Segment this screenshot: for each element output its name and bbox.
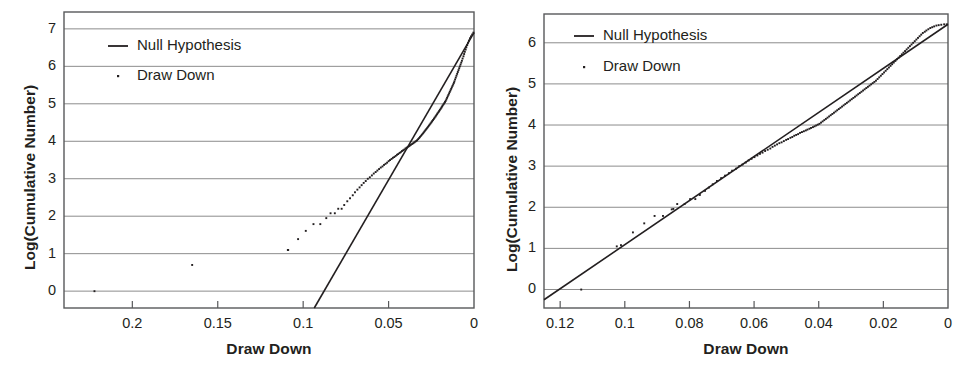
y-tick-label: 2 xyxy=(30,207,56,223)
legend-label-draw-down-right: Draw Down xyxy=(603,57,681,74)
data-point xyxy=(909,45,911,47)
data-point xyxy=(457,71,459,73)
data-point xyxy=(903,52,905,54)
x-tick-label: 0.06 xyxy=(724,315,784,331)
y-tick-label: 0 xyxy=(30,282,56,298)
data-point xyxy=(467,42,469,44)
data-point xyxy=(373,173,375,175)
data-point xyxy=(684,203,686,205)
data-point xyxy=(791,136,793,138)
data-point xyxy=(325,217,327,219)
y-tick-label: 2 xyxy=(510,198,536,214)
data-point xyxy=(461,60,463,62)
data-point xyxy=(456,73,458,75)
data-point xyxy=(869,85,871,87)
figure-two-panel-qq-plots: Log(Cumulative Number) Draw Down Null Hy… xyxy=(0,0,978,379)
data-point xyxy=(943,23,945,25)
data-point xyxy=(708,187,710,189)
data-point xyxy=(456,75,458,77)
x-tick-label: 0.08 xyxy=(659,315,719,331)
data-point xyxy=(468,40,470,42)
data-point xyxy=(812,126,814,128)
data-point xyxy=(891,63,893,65)
data-point xyxy=(825,118,827,120)
data-point xyxy=(920,34,922,36)
data-point xyxy=(890,65,892,67)
data-point xyxy=(694,198,696,200)
data-point xyxy=(797,133,799,135)
data-point xyxy=(878,76,880,78)
data-point xyxy=(801,131,803,133)
data-point xyxy=(793,135,795,137)
data-point xyxy=(365,180,367,182)
data-point xyxy=(917,37,919,39)
data-point xyxy=(899,55,901,57)
data-point xyxy=(343,204,345,206)
y-tick-label: 5 xyxy=(30,95,56,111)
data-point xyxy=(769,148,771,150)
data-point xyxy=(455,77,457,79)
y-tick-label: 4 xyxy=(510,116,536,132)
x-tick-label: 0.15 xyxy=(188,315,248,331)
data-point xyxy=(849,99,851,101)
data-point xyxy=(716,180,718,182)
data-point xyxy=(922,32,924,34)
data-point xyxy=(776,143,778,145)
chart-panel-right: Log(Cumulative Number) Draw Down Null Hy… xyxy=(489,0,978,379)
data-point xyxy=(453,80,455,82)
data-point xyxy=(712,183,714,185)
data-point xyxy=(911,44,913,46)
data-point xyxy=(865,87,867,89)
data-point xyxy=(643,222,645,224)
data-point xyxy=(699,194,701,196)
data-point xyxy=(756,155,758,157)
data-point xyxy=(885,70,887,72)
data-point xyxy=(844,103,846,105)
data-point xyxy=(828,115,830,117)
data-point xyxy=(894,60,896,62)
data-point xyxy=(856,95,858,97)
data-point xyxy=(662,215,664,217)
data-point xyxy=(929,27,931,29)
x-axis-title-left: Draw Down xyxy=(209,340,329,358)
data-point xyxy=(888,67,890,69)
data-point xyxy=(848,101,850,103)
data-point xyxy=(742,164,744,166)
data-point xyxy=(904,50,906,52)
data-point xyxy=(459,65,461,67)
data-point xyxy=(330,212,332,214)
data-point xyxy=(580,289,582,291)
data-point xyxy=(458,67,460,69)
x-tick-label: 0 xyxy=(918,315,978,331)
data-point xyxy=(654,215,656,217)
data-point xyxy=(363,182,365,184)
data-point xyxy=(735,168,737,170)
data-point xyxy=(471,34,473,36)
data-point xyxy=(836,109,838,111)
data-point xyxy=(883,71,885,73)
data-point xyxy=(839,107,841,109)
data-point xyxy=(906,48,908,50)
data-point xyxy=(772,146,774,148)
y-tick-label: 6 xyxy=(30,57,56,73)
data-point xyxy=(907,47,909,49)
data-point xyxy=(805,129,807,131)
data-point xyxy=(933,25,935,27)
x-tick-label: 0.05 xyxy=(359,315,419,331)
data-point xyxy=(454,79,456,81)
data-point xyxy=(470,35,472,37)
chart-panel-left: Log(Cumulative Number) Draw Down Null Hy… xyxy=(0,0,489,379)
data-point xyxy=(893,62,895,64)
data-point xyxy=(346,200,348,202)
data-point xyxy=(369,176,371,178)
data-point xyxy=(465,49,467,51)
data-point xyxy=(881,73,883,75)
data-point xyxy=(378,168,380,170)
data-point xyxy=(778,142,780,144)
data-point xyxy=(632,231,634,233)
data-point xyxy=(319,223,321,225)
data-point xyxy=(676,203,678,205)
data-point xyxy=(349,197,351,199)
data-point xyxy=(927,28,929,30)
data-point xyxy=(334,212,336,214)
